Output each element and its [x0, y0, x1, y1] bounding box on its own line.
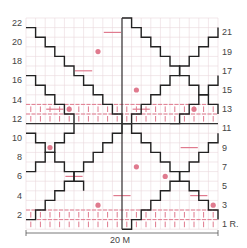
row-number-label: 15 [222, 85, 232, 95]
row-number-label: 7 [222, 162, 227, 172]
row-number-label: 1 R. [222, 219, 239, 229]
row-number-label: 11 [222, 123, 231, 133]
row-number-label: 12 [2, 114, 22, 124]
row-number-label: 13 [222, 104, 232, 114]
row-number-label: 18 [2, 56, 22, 66]
row-number-label: 19 [222, 47, 232, 57]
stitch-width-label: 20 M [110, 235, 130, 245]
dot-icon [211, 203, 216, 208]
row-number-label: 6 [2, 171, 22, 181]
dot-icon [47, 145, 52, 150]
row-number-label: 16 [2, 75, 22, 85]
dot-icon [134, 164, 139, 169]
row-number-label: 14 [2, 95, 22, 105]
row-number-label: 5 [222, 181, 227, 191]
row-number-label: 10 [2, 133, 22, 143]
row-number-label: 2 [2, 210, 22, 220]
row-number-label: 21 [222, 27, 232, 37]
row-number-label: 4 [2, 191, 22, 201]
dot-icon [134, 87, 139, 92]
dot-icon [163, 174, 168, 179]
knitting-chart [0, 0, 247, 248]
dot-icon [95, 203, 100, 208]
row-number-label: 8 [2, 152, 22, 162]
row-number-label: 9 [222, 143, 227, 153]
dot-icon [67, 107, 72, 112]
row-number-label: 22 [2, 18, 22, 28]
row-number-label: 3 [222, 200, 227, 210]
dot-icon [191, 107, 196, 112]
row-number-label: 17 [222, 66, 232, 76]
row-number-label: 20 [2, 37, 22, 47]
dot-icon [95, 49, 100, 54]
